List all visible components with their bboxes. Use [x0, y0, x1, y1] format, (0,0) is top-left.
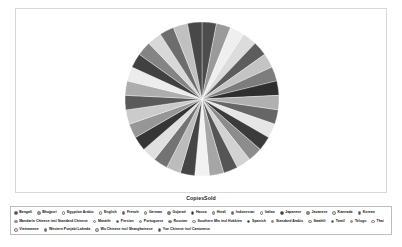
legend-item-label: German [149, 211, 162, 215]
legend-item[interactable]: Western Punjabi Lahnda [44, 228, 90, 232]
legend-item-label: Spanish [252, 220, 266, 224]
legend-item-label: Gujarati [172, 211, 185, 215]
legend-item[interactable]: Kannada [332, 211, 352, 215]
legend-swatch-icon [116, 220, 120, 224]
legend-item-label: Western Punjabi Lahnda [49, 228, 90, 232]
legend-item[interactable]: Russian [168, 220, 187, 224]
legend-item[interactable]: Persian [116, 220, 134, 224]
legend-item-label: Bhojpuri [42, 211, 57, 215]
legend-swatch-icon [371, 220, 375, 224]
legend-swatch-icon [191, 211, 195, 215]
legend-row: VietnameseWestern Punjabi LahndaWu Chine… [14, 226, 388, 234]
legend-swatch-icon [144, 211, 148, 215]
legend-item-label: Indonesian [236, 211, 255, 215]
pie-chart-area [16, 9, 388, 194]
legend-item[interactable]: Indonesian [231, 211, 255, 215]
legend-swatch-icon [93, 220, 97, 224]
legend-swatch-icon [247, 220, 251, 224]
legend-item[interactable]: Wu Chinese incl Shanghainese [95, 228, 152, 232]
pie-chart[interactable] [124, 21, 280, 177]
legend-swatch-icon [280, 211, 284, 215]
legend-item-label: Thai [376, 220, 383, 224]
legend-row: Mandarin Chinese incl Standard ChineseMa… [14, 217, 388, 225]
legend-item-label: Mandarin Chinese incl Standard Chinese [19, 220, 88, 224]
legend-item[interactable]: Egyptian Arabic [62, 211, 94, 215]
legend-swatch-icon [168, 220, 172, 224]
legend-item-label: Bengali [19, 211, 32, 215]
legend-item-label: Standard Arabic [276, 220, 303, 224]
legend-item[interactable]: Javanese [306, 211, 327, 215]
legend-swatch-icon [332, 211, 336, 215]
legend-swatch-icon [44, 228, 48, 232]
legend-item-label: Hausa [196, 211, 207, 215]
legend-item[interactable]: Mandarin Chinese incl Standard Chinese [14, 220, 88, 224]
legend-item[interactable]: Swahili [308, 220, 325, 224]
legend-item[interactable]: Bengali [14, 211, 32, 215]
legend-item-label: Swahili [313, 220, 325, 224]
legend-item-label: Tamil [336, 220, 345, 224]
legend-swatch-icon [358, 211, 362, 215]
chart-panel [15, 8, 387, 193]
legend-swatch-icon [260, 211, 264, 215]
legend-swatch-icon [62, 211, 66, 215]
legend-item[interactable]: Korean [358, 211, 375, 215]
legend-item[interactable]: Telugu [350, 220, 367, 224]
legend-swatch-icon [99, 211, 103, 215]
legend-item[interactable]: Tamil [331, 220, 345, 224]
legend-swatch-icon [350, 220, 354, 224]
legend-swatch-icon [14, 220, 18, 224]
legend-item[interactable]: Standard Arabic [271, 220, 303, 224]
legend-item-label: Portuguese [144, 220, 163, 224]
legend-swatch-icon [14, 228, 18, 232]
legend-swatch-icon [158, 228, 162, 232]
legend-item-label: Yue Chinese incl Cantonese [163, 228, 210, 232]
legend-item[interactable]: Hausa [191, 211, 207, 215]
chart-title: CopiesSold [0, 195, 402, 201]
legend-swatch-icon [306, 211, 310, 215]
legend-item[interactable]: Southern Min incl Hokkien [192, 220, 242, 224]
legend-item-label: Vietnamese [19, 228, 39, 232]
legend-swatch-icon [331, 220, 335, 224]
legend-item-label: Marathi [98, 220, 111, 224]
legend-swatch-icon [139, 220, 143, 224]
legend-row: BengaliBhojpuriEgyptian ArabicEnglishFre… [14, 209, 388, 217]
legend-item[interactable]: French [122, 211, 139, 215]
legend-swatch-icon [308, 220, 312, 224]
legend-item[interactable]: Vietnamese [14, 228, 39, 232]
legend-item[interactable]: German [144, 211, 163, 215]
legend-item-label: Italian [265, 211, 275, 215]
legend-swatch-icon [95, 228, 99, 232]
legend-swatch-icon [122, 211, 126, 215]
legend-swatch-icon [14, 211, 18, 215]
legend-item-label: Wu Chinese incl Shanghainese [100, 228, 152, 232]
legend-item-label: Korean [363, 211, 375, 215]
legend-item[interactable]: Bhojpuri [37, 211, 57, 215]
legend-item-label: Hindi [217, 211, 226, 215]
legend-swatch-icon [192, 220, 196, 224]
legend-item[interactable]: Marathi [93, 220, 111, 224]
legend-item[interactable]: Hindi [212, 211, 226, 215]
chart-legend: BengaliBhojpuriEgyptian ArabicEnglishFre… [10, 206, 392, 235]
legend-item-label: Southern Min incl Hokkien [197, 220, 241, 224]
legend-item[interactable]: Japanese [280, 211, 301, 215]
legend-item[interactable]: Portuguese [139, 220, 164, 224]
legend-item[interactable]: Gujarati [167, 211, 186, 215]
legend-item-label: Japanese [285, 211, 301, 215]
legend-item-label: Kannada [338, 211, 353, 215]
legend-swatch-icon [37, 211, 41, 215]
legend-item-label: English [104, 211, 117, 215]
legend-item[interactable]: Italian [260, 211, 275, 215]
legend-item-label: Javanese [311, 211, 327, 215]
legend-item-label: Russian [173, 220, 187, 224]
legend-item-label: Telugu [355, 220, 366, 224]
legend-swatch-icon [167, 211, 171, 215]
legend-swatch-icon [212, 211, 216, 215]
legend-item[interactable]: Thai [371, 220, 383, 224]
legend-item-label: Persian [121, 220, 134, 224]
legend-item[interactable]: Yue Chinese incl Cantonese [158, 228, 210, 232]
legend-item-label: French [127, 211, 139, 215]
legend-item[interactable]: English [99, 211, 117, 215]
legend-swatch-icon [231, 211, 235, 215]
legend-item[interactable]: Spanish [247, 220, 266, 224]
legend-item-label: Egyptian Arabic [67, 211, 94, 215]
